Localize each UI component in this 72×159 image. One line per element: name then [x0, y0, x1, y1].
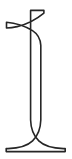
glyph-canvas: Outline drawing of the serif numeral 1	[0, 0, 72, 159]
numeral-one-icon: Outline drawing of the serif numeral 1	[0, 0, 72, 159]
numeral-one-outline	[6, 10, 65, 151]
